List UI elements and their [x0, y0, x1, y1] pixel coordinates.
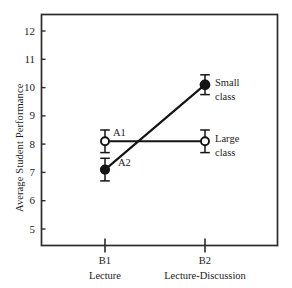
data-point-large-b2	[201, 137, 209, 145]
y-tick-label-12: 12	[19, 26, 35, 37]
chart-canvas	[0, 0, 292, 288]
y-axis-title: Average Student Performance	[15, 84, 26, 212]
data-point-large-b1	[101, 137, 109, 145]
x-tick-label-b2: B2	[199, 256, 211, 267]
x-tick-sublabel-lecture-discussion: Lecture-Discussion	[164, 271, 246, 282]
legend-label-large-class-line2: class	[215, 148, 235, 159]
plot-frame	[42, 15, 278, 246]
legend-label-large-class-line1: Large	[215, 134, 239, 145]
legend-label-small-class-line2: class	[215, 92, 235, 103]
legend-label-small-class-line1: Small	[215, 78, 240, 89]
annotation-a2: A2	[118, 158, 131, 169]
x-tick-label-b1: B1	[99, 256, 111, 267]
chart-container: 12 11 10 9 8 7 6 5 Average Student Perfo…	[0, 0, 292, 288]
y-tick-label-11: 11	[19, 54, 35, 65]
annotation-a1: A1	[113, 128, 126, 139]
data-point-small-b1	[101, 165, 110, 174]
data-point-small-b2	[200, 80, 209, 89]
x-tick-sublabel-lecture: Lecture	[89, 271, 121, 282]
y-tick-label-5: 5	[19, 224, 35, 235]
